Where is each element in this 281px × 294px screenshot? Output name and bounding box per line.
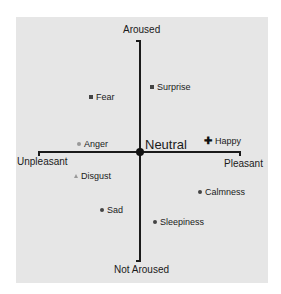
label-aroused: Aroused (123, 24, 160, 35)
point-sad: Sad (100, 205, 123, 215)
circle-marker-icon (153, 220, 157, 224)
triangle-marker-icon (74, 174, 78, 178)
axis-tick-bottom (136, 260, 141, 262)
label-pleasant: Pleasant (224, 158, 263, 169)
axis-tick-right (239, 151, 241, 156)
point-fear: Fear (89, 92, 115, 102)
plus-marker-icon: ✚ (204, 136, 212, 146)
neutral-point (136, 148, 144, 156)
point-sleepiness: Sleepiness (153, 217, 204, 227)
circle-marker-icon (77, 142, 81, 146)
point-surprise: Surprise (150, 82, 191, 92)
point-happy: ✚ Happy (204, 136, 241, 146)
label-neutral: Neutral (145, 137, 187, 152)
point-disgust: Disgust (74, 171, 111, 181)
point-anger: Anger (77, 139, 108, 149)
label-unpleasant: Unpleasant (17, 156, 68, 167)
axis-tick-top (136, 40, 141, 42)
square-marker-icon (150, 85, 154, 89)
square-marker-icon (89, 95, 93, 99)
label-not-aroused: Not Aroused (114, 264, 169, 275)
circle-marker-icon (100, 208, 104, 212)
point-calmness: Calmness (198, 187, 245, 197)
circle-marker-icon (198, 190, 202, 194)
